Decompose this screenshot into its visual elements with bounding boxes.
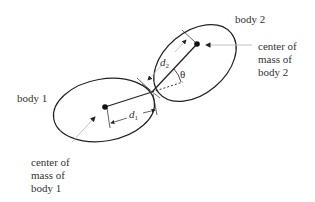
- body-1-label: body 1: [17, 92, 47, 104]
- two-body-contact-diagram: body 1 body 2 center of mass of body 1 c…: [0, 0, 315, 202]
- d1-label: d1: [129, 108, 138, 124]
- com2-label-line3: body 2: [258, 66, 288, 78]
- body-2-label: body 2: [235, 13, 265, 25]
- com1-to-contact-line: [105, 92, 152, 107]
- com2-label-line1: center of: [258, 40, 297, 52]
- com1-leader: [72, 117, 95, 142]
- com1-label-line2: mass of: [31, 169, 65, 181]
- d1-dim-left: [111, 118, 127, 123]
- body-1-outline: [48, 71, 159, 150]
- body-2-outline: [139, 9, 251, 117]
- com1-label-line1: center of: [31, 156, 70, 168]
- com2-label-line2: mass of: [258, 53, 292, 65]
- d2-dim-top: [175, 40, 186, 52]
- d2-label: d2: [160, 56, 169, 72]
- d2-tick-top: [182, 30, 195, 42]
- com1-label-line3: body 1: [31, 182, 61, 194]
- d1-tick-left: [107, 108, 110, 128]
- theta-label: θ: [180, 68, 185, 80]
- com2-dot: [194, 41, 200, 47]
